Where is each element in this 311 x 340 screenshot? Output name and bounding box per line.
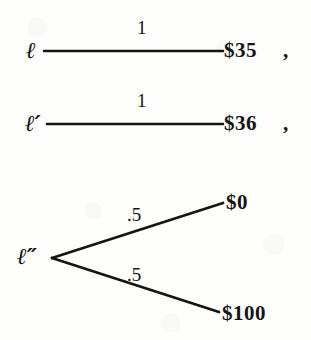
payoff-label-lottery3-branch-upper: $0 [226,192,248,213]
lottery-node-1: ℓ [26,38,36,61]
comma-after-lottery1: , [283,40,288,61]
lottery-node-3: ℓ″ [17,244,37,267]
comma-after-lottery2: , [283,113,288,134]
lottery-figure: ℓ 1 $35 , ℓ′ 1 $36 , ℓ″ .5 $0 .5 $100 [0,0,311,340]
payoff-label-lottery3-branch-lower: $100 [222,303,266,324]
probability-label-lottery3-branch-lower: .5 [127,265,141,284]
payoff-label-lottery2-branch1: $36 [224,113,257,134]
lottery-node-2: ℓ′ [25,111,41,134]
probability-label-lottery2-branch1: 1 [137,91,147,110]
payoff-label-lottery1-branch1: $35 [224,40,257,61]
tree-edges [0,0,311,340]
probability-label-lottery1-branch1: 1 [137,18,147,37]
probability-label-lottery3-branch-upper: .5 [127,205,141,224]
